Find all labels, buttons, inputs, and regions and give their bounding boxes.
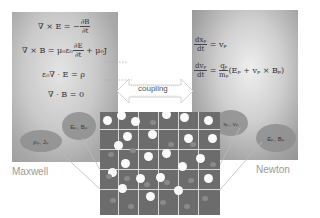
particle-grid bbox=[100, 112, 220, 215]
coupling-label: coupling bbox=[138, 84, 168, 93]
